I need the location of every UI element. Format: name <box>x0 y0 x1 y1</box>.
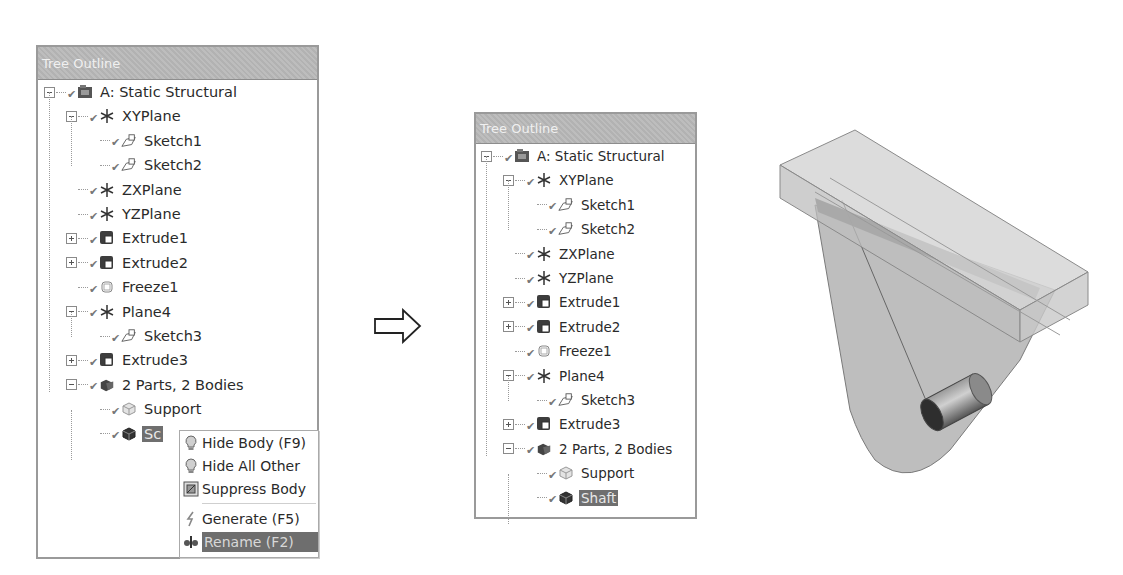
tree-guide-line <box>508 180 509 230</box>
suppress-icon <box>183 481 199 497</box>
tree-item-label: Extrude1 <box>120 230 190 246</box>
tree-item-label: ZXPlane <box>557 246 617 262</box>
tree-connector <box>537 204 547 205</box>
tree-item-extrude3[interactable]: ✔Extrude3 <box>66 348 190 372</box>
tree-connector <box>100 140 110 141</box>
tree-item-xyplane[interactable]: ✔XYPlane <box>503 168 616 192</box>
tree-item-yzplane[interactable]: ✔YZPlane <box>66 202 183 226</box>
static-structural-icon <box>514 148 530 164</box>
tree-item-sketch1[interactable]: ✔Sketch1 <box>525 193 637 217</box>
check-icon: ✔ <box>548 469 557 482</box>
collapse-icon[interactable] <box>66 379 77 390</box>
tree-connector <box>100 409 110 410</box>
tree-connector <box>515 424 525 425</box>
tree-item-zxplane[interactable]: ✔ZXPlane <box>503 242 617 266</box>
tree-item-extrude2[interactable]: ✔Extrude2 <box>503 315 622 339</box>
tree-item-2-parts-2-bodies[interactable]: ✔2 Parts, 2 Bodies <box>66 373 246 397</box>
check-icon: ✔ <box>548 200 557 213</box>
check-icon: ✔ <box>548 493 557 506</box>
tree-item-label: Freeze1 <box>557 343 614 359</box>
tree-item-zxplane[interactable]: ✔ZXPlane <box>66 178 184 202</box>
sketch-icon <box>558 392 574 408</box>
expand-icon[interactable] <box>503 419 514 430</box>
tree-connector <box>493 156 503 157</box>
tree-item-support[interactable]: ✔Support <box>525 461 636 485</box>
tree-item-label: Support <box>579 465 636 481</box>
plane-icon <box>536 246 552 262</box>
extrude-icon <box>99 230 115 246</box>
tree-item-yzplane[interactable]: ✔YZPlane <box>503 266 616 290</box>
tree-connector <box>515 351 525 352</box>
tree-item-label: YZPlane <box>557 270 616 286</box>
tree-item-label: Extrude1 <box>557 294 622 310</box>
expand-icon[interactable] <box>66 257 77 268</box>
tree-item-label: A: Static Structural <box>98 84 239 100</box>
expand-icon[interactable] <box>503 321 514 332</box>
tree-item-extrude1[interactable]: ✔Extrude1 <box>503 290 622 314</box>
menu-item-hide-body[interactable]: Hide Body (F9) <box>180 431 318 454</box>
tree-item-extrude1[interactable]: ✔Extrude1 <box>66 226 190 250</box>
check-icon: ✔ <box>526 444 535 457</box>
tree-connector <box>515 375 525 376</box>
tree-item-label: Extrude2 <box>557 319 622 335</box>
check-icon: ✔ <box>111 332 120 345</box>
tree-connector <box>537 473 547 474</box>
tree-item-sketch1[interactable]: ✔Sketch1 <box>88 129 204 153</box>
menu-item-generate[interactable]: Generate (F5) <box>180 507 318 530</box>
tree-item-label: Shaft <box>579 490 618 506</box>
right-arrow-icon <box>373 308 423 344</box>
tree-item-label: Sketch1 <box>579 197 637 213</box>
sketch-icon <box>558 197 574 213</box>
check-icon: ✔ <box>89 210 98 223</box>
tree-connector <box>537 400 547 401</box>
menu-item-hide-all-other[interactable]: Hide All Other <box>180 454 318 477</box>
tree-item-label: ZXPlane <box>120 182 184 198</box>
expand-icon[interactable] <box>503 297 514 308</box>
check-icon: ✔ <box>548 225 557 238</box>
tree-item-sketch3[interactable]: ✔Sketch3 <box>525 388 637 412</box>
tree-item-freeze1[interactable]: ✔Freeze1 <box>66 275 181 299</box>
tree-item-label: Plane4 <box>120 304 173 320</box>
sketch-icon <box>121 157 137 173</box>
menu-item-rename[interactable]: Rename (F2) <box>180 530 318 553</box>
tree-connector <box>515 326 525 327</box>
menu-item-suppress-body[interactable]: Suppress Body <box>180 477 318 500</box>
tree-item-plane4[interactable]: ✔Plane4 <box>503 364 607 388</box>
tree-item-sketch2[interactable]: ✔Sketch2 <box>88 153 204 177</box>
tree-item-label: Plane4 <box>557 368 607 384</box>
tree-item-label: Extrude3 <box>557 416 622 432</box>
expand-icon[interactable] <box>66 233 77 244</box>
tree-connector <box>56 92 66 93</box>
collapse-icon[interactable] <box>503 443 514 454</box>
check-icon: ✔ <box>526 176 535 189</box>
tree-item-sketch2[interactable]: ✔Sketch2 <box>525 217 637 241</box>
tree-connector <box>78 287 88 288</box>
tree-item-label: Support <box>142 401 203 417</box>
tree-item-xyplane[interactable]: ✔XYPlane <box>66 104 183 128</box>
tree-item-freeze1[interactable]: ✔Freeze1 <box>503 339 614 363</box>
tree-item-label: Extrude2 <box>120 255 190 271</box>
tree-item-label: XYPlane <box>557 172 616 188</box>
tree-item-label: A: Static Structural <box>535 148 667 164</box>
plane-icon <box>536 172 552 188</box>
tree-item-sketch3[interactable]: ✔Sketch3 <box>88 324 204 348</box>
tree-item-a-static-structural[interactable]: ✔A: Static Structural <box>44 80 239 104</box>
tree-item-label: 2 Parts, 2 Bodies <box>120 377 246 393</box>
plane-icon <box>99 108 115 124</box>
tree-item-extrude2[interactable]: ✔Extrude2 <box>66 251 190 275</box>
tree-item-sc[interactable]: ✔Sc <box>88 422 163 446</box>
model-3d-view[interactable] <box>770 120 1110 500</box>
check-icon: ✔ <box>89 307 98 320</box>
expand-icon[interactable] <box>66 355 77 366</box>
tree-item-support[interactable]: ✔Support <box>88 397 203 421</box>
tree-connector <box>100 433 110 434</box>
tree-item-plane4[interactable]: ✔Plane4 <box>66 300 173 324</box>
tree-item-2-parts-2-bodies[interactable]: ✔2 Parts, 2 Bodies <box>503 437 674 461</box>
tree-item-label: Freeze1 <box>120 279 181 295</box>
freeze-icon <box>99 279 115 295</box>
tree-item-shaft[interactable]: ✔Shaft <box>525 486 618 510</box>
tree-item-a-static-structural[interactable]: ✔A: Static Structural <box>481 144 667 168</box>
tree-item-label: Sketch1 <box>142 133 204 149</box>
panel-title: Tree Outline <box>476 114 695 144</box>
tree-item-extrude3[interactable]: ✔Extrude3 <box>503 412 622 436</box>
